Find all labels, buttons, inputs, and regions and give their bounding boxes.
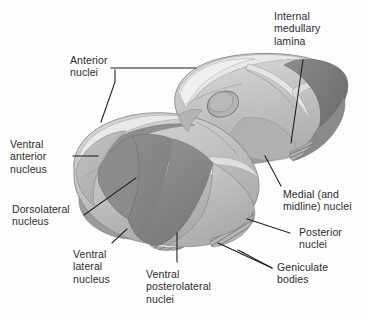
leader-posterior-nuclei <box>247 219 290 233</box>
label-ventral-posterolateral-nuclei: Ventral posterolateral nuclei <box>146 268 211 305</box>
leader-geniculate-2 <box>238 250 272 268</box>
label-geniculate-bodies: Geniculate bodies <box>277 261 328 286</box>
label-ventral-anterior-nucleus: Ventral anterior nucleus <box>10 138 47 175</box>
label-internal-medullary-lamina: Internal medullary lamina <box>274 10 320 47</box>
label-dorsolateral-nucleus: Dorsolateral nucleus <box>12 203 70 228</box>
label-medial-midline-nuclei: Medial (and midline) nuclei <box>283 188 352 213</box>
label-anterior-nuclei: Anterior nuclei <box>70 54 108 79</box>
label-ventral-lateral-nucleus: Ventral lateral nucleus <box>73 248 110 285</box>
label-posterior-nuclei: Posterior nuclei <box>299 226 342 251</box>
figure-container: Anterior nuclei Internal medullary lamin… <box>0 0 368 321</box>
